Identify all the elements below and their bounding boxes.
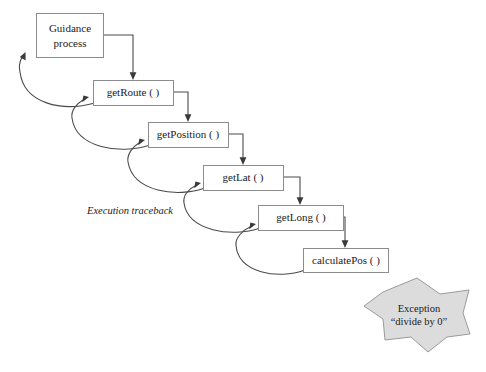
call-box-getposition-label: getPosition ( ) xyxy=(157,128,220,141)
call-box-getroute-label: getRoute ( ) xyxy=(107,86,160,99)
arrowhead-down-icon xyxy=(185,114,192,122)
exception-starburst: Exception “divide by 0” xyxy=(364,278,470,352)
arrowhead-upright-icon xyxy=(194,182,201,189)
arrowhead-down-icon xyxy=(342,240,349,248)
arrowhead-down-icon xyxy=(240,157,247,165)
call-edge-guidance-to-getroute xyxy=(103,35,136,80)
diagram-canvas: Guidance process getRoute ( ) getPositio… xyxy=(0,0,486,372)
arrowhead-upright-icon xyxy=(249,223,256,230)
exception-detail: “divide by 0” xyxy=(391,316,448,327)
arrowhead-upright-icon xyxy=(138,139,145,146)
execution-traceback-label: Execution traceback xyxy=(86,205,173,216)
call-box-guidance[interactable]: Guidance process xyxy=(37,14,104,58)
call-box-calculatepos-label: calculatePos ( ) xyxy=(312,254,380,267)
call-box-getlat-label: getLat ( ) xyxy=(223,171,264,184)
arrowhead-down-icon xyxy=(130,72,137,80)
arrowhead-upright-icon xyxy=(82,96,89,103)
starburst-shape xyxy=(364,278,470,352)
call-edge-getposition-to-getlat xyxy=(228,134,246,165)
call-box-getlat[interactable]: getLat ( ) xyxy=(204,166,284,191)
arrowhead-down-icon xyxy=(297,197,304,205)
call-box-guidance-label-line1: Guidance xyxy=(49,22,91,34)
call-box-getlong[interactable]: getLong ( ) xyxy=(259,206,344,231)
traceback-diagram: Guidance process getRoute ( ) getPositio… xyxy=(0,0,486,372)
exception-title: Exception xyxy=(398,303,441,314)
caption-strip xyxy=(0,362,486,372)
call-box-getposition[interactable]: getPosition ( ) xyxy=(149,123,229,148)
call-box-getlong-label: getLong ( ) xyxy=(276,211,326,224)
call-edge-getlat-to-getlong xyxy=(283,177,303,205)
call-box-getroute[interactable]: getRoute ( ) xyxy=(94,81,174,106)
call-box-calculatepos[interactable]: calculatePos ( ) xyxy=(304,249,389,273)
call-box-guidance-label-line2: process xyxy=(54,37,87,49)
call-edge-getroute-to-getposition xyxy=(173,92,191,122)
